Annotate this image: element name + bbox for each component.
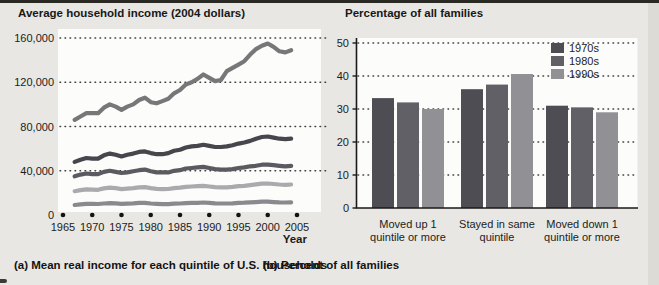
legend-swatch-1980s: [551, 56, 564, 66]
bar-1970s-category-1: [372, 98, 394, 208]
legend-swatch-1970s: [551, 43, 564, 53]
category-label-3: Moved down 1quintile or more: [544, 218, 620, 243]
bar-1990s-category-2: [511, 74, 533, 208]
bar-1980s-category-3: [571, 107, 593, 208]
legend-swatch-1990s: [551, 69, 564, 79]
legend-label-1980s: 1980s: [569, 55, 599, 67]
y-tick-label: 40: [337, 70, 349, 82]
y-tick-label: 50: [337, 37, 349, 49]
legend-label-1970s: 1970s: [569, 42, 599, 54]
bar-1980s-category-1: [397, 102, 419, 208]
bar-1990s-category-3: [596, 112, 618, 208]
legend-item-1980s: 1980s: [551, 55, 599, 67]
y-tick-label: 10: [337, 169, 349, 181]
category-label-1: Moved up 1quintile or more: [370, 218, 446, 243]
legend-item-1990s: 1990s: [551, 68, 599, 80]
y-tick-label: 30: [337, 103, 349, 115]
bar-1990s-category-1: [422, 109, 444, 208]
income-mobility-figure: Average household income (2004 dollars) …: [0, 0, 659, 285]
legend-label-1990s: 1990s: [569, 68, 599, 80]
y-tick-label: 20: [337, 136, 349, 148]
category-label-2: Stayed in samequintile: [459, 218, 535, 243]
y-tick-label: 0: [343, 202, 349, 214]
legend: 1970s 1980s 1990s: [551, 42, 599, 81]
bar-1970s-category-3: [546, 106, 568, 208]
caption-b: (b) Percent of all families: [263, 259, 399, 271]
bar-1970s-category-2: [461, 89, 483, 208]
legend-item-1970s: 1970s: [551, 42, 599, 54]
bar-1980s-category-2: [486, 85, 508, 208]
